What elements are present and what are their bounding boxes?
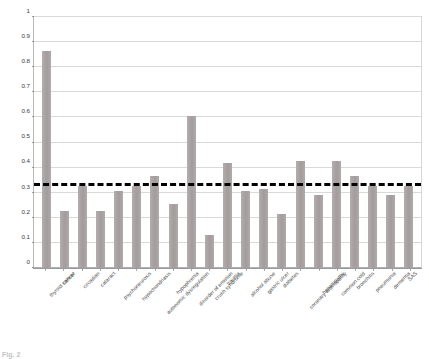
x-label-slot: cataract: [91, 269, 109, 349]
bar[interactable]: [277, 214, 286, 268]
y-axis-tick-label: 0.7: [21, 83, 30, 89]
bar-chart-figure: 00.10.20.30.40.50.60.70.80.91 thyroid ca…: [0, 0, 429, 359]
bar[interactable]: [132, 186, 141, 268]
y-axis-tick-label: 0.1: [21, 234, 30, 240]
x-label-slot: disorder of emotion: [182, 269, 200, 349]
bar[interactable]: [114, 191, 123, 268]
x-axis-tick-mark: [173, 269, 174, 271]
bar-slot: [128, 17, 146, 268]
y-axis-tick-label: 0: [27, 259, 30, 265]
x-axis-tick-mark: [82, 269, 83, 271]
bar[interactable]: [169, 204, 178, 268]
y-axis-tick-label: 0.8: [21, 58, 30, 64]
bar-slot: [37, 17, 55, 268]
bar[interactable]: [314, 195, 323, 268]
bar-slot: [218, 17, 236, 268]
x-axis-tick-mark: [118, 269, 119, 271]
x-label-slot: hepatopathy: [310, 269, 328, 349]
y-axis-tick-label: 0.9: [21, 33, 30, 39]
bar[interactable]: [60, 211, 69, 268]
x-axis-tick-mark: [136, 269, 137, 271]
x-axis-tick-mark: [227, 269, 228, 271]
x-label-slot: thyroid cancer: [36, 269, 54, 349]
x-axis-tick-mark: [337, 269, 338, 271]
bar-slot: [110, 17, 128, 268]
x-axis-tick-mark: [282, 269, 283, 271]
x-axis-tick-mark: [45, 269, 46, 271]
x-label-slot: crush syndrome: [200, 269, 218, 349]
bar-series: [34, 17, 421, 268]
y-axis-tick-label: 0.6: [21, 108, 30, 114]
bar-slot: [182, 17, 200, 268]
x-axis-tick-mark: [155, 269, 156, 271]
bar[interactable]: [187, 116, 196, 268]
bar[interactable]: [296, 161, 305, 268]
bar-slot: [345, 17, 363, 268]
bar-slot: [73, 17, 91, 268]
x-axis-tick-mark: [392, 269, 393, 271]
x-label-slot: hypochondriasis: [127, 269, 145, 349]
x-axis-tick-mark: [373, 269, 374, 271]
bar-slot: [91, 17, 109, 268]
bar[interactable]: [332, 161, 341, 268]
bar-slot: [237, 17, 255, 268]
x-axis-tick-mark: [63, 269, 64, 271]
x-label-slot: autonomic dysregulation: [145, 269, 163, 349]
bar[interactable]: [350, 176, 359, 268]
x-axis-tick-mark: [319, 269, 320, 271]
bar-slot: [400, 17, 418, 268]
x-axis-tick-mark: [300, 269, 301, 271]
bar[interactable]: [386, 195, 395, 268]
x-label-slot: pneumonia: [364, 269, 382, 349]
bar[interactable]: [223, 163, 232, 268]
figure-caption: Fig. 2: [2, 350, 427, 359]
y-axis-tick-label: 0.5: [21, 133, 30, 139]
bar[interactable]: [404, 186, 413, 268]
bar[interactable]: [241, 191, 250, 268]
x-label-slot: circadian: [72, 269, 90, 349]
bar[interactable]: [205, 235, 214, 268]
y-axis-tick-label: 0.2: [21, 209, 30, 215]
x-label-slot: hypophrenia: [164, 269, 182, 349]
x-axis-tick-mark: [264, 269, 265, 271]
bar[interactable]: [42, 51, 51, 268]
bar-slot: [291, 17, 309, 268]
x-label-slot: common cold: [328, 269, 346, 349]
bar-slot: [273, 17, 291, 268]
x-axis-tick-mark: [246, 269, 247, 271]
bar-slot: [255, 17, 273, 268]
x-label-slot: coronary arteriopathy: [291, 269, 309, 349]
bar[interactable]: [259, 189, 268, 268]
bar[interactable]: [150, 176, 159, 268]
x-axis-tick-mark: [100, 269, 101, 271]
x-axis-category-labels: thyroid cancercancercircadiancataractpsy…: [33, 269, 422, 349]
bar[interactable]: [96, 211, 105, 268]
y-axis-tick-label: 1: [27, 8, 30, 14]
bar-slot: [364, 17, 382, 268]
caption-prefix: Fig. 2: [2, 351, 20, 358]
y-axis-tick-label: 0.4: [21, 158, 30, 164]
x-label-slot: diabetes: [273, 269, 291, 349]
bar-slot: [146, 17, 164, 268]
x-label-slot: gastric ulcer: [255, 269, 273, 349]
bar[interactable]: [368, 186, 377, 268]
bar-slot: [55, 17, 73, 268]
bar-slot: [327, 17, 345, 268]
x-axis-category-label: SAS: [407, 271, 418, 282]
x-axis-tick-mark: [410, 269, 411, 271]
x-axis-tick-mark: [355, 269, 356, 271]
plot-area: 00.10.20.30.40.50.60.70.80.91: [33, 16, 422, 268]
x-label-slot: SAS: [401, 269, 419, 349]
bar-slot: [382, 17, 400, 268]
x-label-slot: cancer: [54, 269, 72, 349]
bar-slot: [200, 17, 218, 268]
x-axis-tick-mark: [191, 269, 192, 271]
x-label-slot: trauma: [218, 269, 236, 349]
x-axis-tick-mark: [209, 269, 210, 271]
x-label-slot: alcohol abuse: [237, 269, 255, 349]
x-label-slot: bronchitis: [346, 269, 364, 349]
x-label-slot: psychoneurosis: [109, 269, 127, 349]
bar[interactable]: [78, 186, 87, 268]
threshold-line: [34, 183, 421, 186]
bar-slot: [164, 17, 182, 268]
